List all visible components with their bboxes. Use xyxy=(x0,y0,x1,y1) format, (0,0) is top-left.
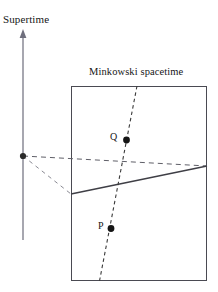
point-P-label: P xyxy=(98,221,104,231)
supertime-axis-arrow-icon xyxy=(20,29,27,38)
dashed-projection-upper xyxy=(23,156,207,166)
point-Q-label: Q xyxy=(110,132,117,142)
spacetime-diagram: Supertime Minkowski spacetime Q P xyxy=(0,0,218,292)
minkowski-spacetime-panel-border xyxy=(72,87,207,281)
solid-simultaneity-line xyxy=(71,166,207,194)
point-Q-marker xyxy=(123,137,130,144)
supertime-vertex-point xyxy=(20,153,26,159)
point-P-marker xyxy=(108,225,115,232)
diagram-canvas xyxy=(0,0,218,292)
dashed-worldline xyxy=(100,86,138,281)
panel-title: Minkowski spacetime xyxy=(89,67,183,78)
dashed-projection-lower xyxy=(23,156,71,194)
supertime-axis-label: Supertime xyxy=(3,14,49,25)
